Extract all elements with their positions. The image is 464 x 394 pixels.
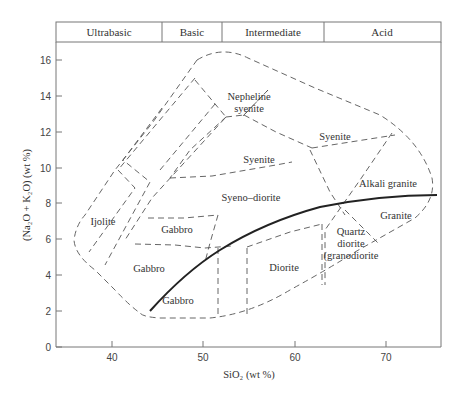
y-tick-2: 2	[45, 306, 51, 317]
tas-diagram: Ultrabasic Basic Intermediate Acid 0 2 4…	[0, 0, 464, 394]
label-alkali-granite: Alkali granite	[359, 178, 417, 189]
header-acid: Acid	[371, 26, 393, 38]
y-tick-8: 8	[45, 198, 51, 209]
label-nepheline-syenite-1: Nepheline	[227, 91, 270, 102]
label-gabbro-lower: Gabbro	[162, 295, 194, 306]
y-tick-6: 6	[45, 234, 51, 245]
header-basic: Basic	[180, 26, 205, 38]
label-quartz-diorite-2: diorite	[337, 238, 365, 249]
x-tick-40: 40	[106, 352, 118, 363]
silica-category-header: Ultrabasic Basic Intermediate Acid	[56, 22, 441, 42]
label-nepheline-syenite-2: syenite	[234, 103, 264, 114]
label-granite: Granite	[380, 210, 412, 221]
x-tick-70: 70	[380, 352, 392, 363]
label-quartz-diorite-3: (granodiorite	[324, 250, 379, 262]
label-syenite-middle: Syenite	[243, 154, 275, 165]
y-tick-16: 16	[40, 55, 52, 66]
y-tick-4: 4	[45, 270, 51, 281]
y-tick-14: 14	[40, 91, 52, 102]
x-tick-60: 60	[289, 352, 301, 363]
label-syeno-diorite: Syeno–diorite	[222, 192, 281, 203]
x-tick-50: 50	[197, 352, 209, 363]
y-tick-0: 0	[45, 342, 51, 353]
y-tick-10: 10	[40, 163, 52, 174]
label-gabbro-middle: Gabbro	[133, 263, 165, 274]
x-axis-title: SiO₂ (wt %)	[223, 369, 275, 381]
y-tick-12: 12	[40, 127, 52, 138]
label-quartz-diorite-1: Quartz	[337, 226, 366, 237]
label-syenite-upper: Syenite	[319, 131, 351, 142]
label-gabbro-upper: Gabbro	[161, 224, 193, 235]
label-ijolite: Ijolite	[90, 216, 115, 227]
header-intermediate: Intermediate	[245, 26, 301, 38]
y-axis-title: (Na₂O + K₂O) (wt %)	[21, 149, 33, 241]
header-ultrabasic: Ultrabasic	[86, 26, 131, 38]
label-diorite: Diorite	[269, 262, 299, 273]
